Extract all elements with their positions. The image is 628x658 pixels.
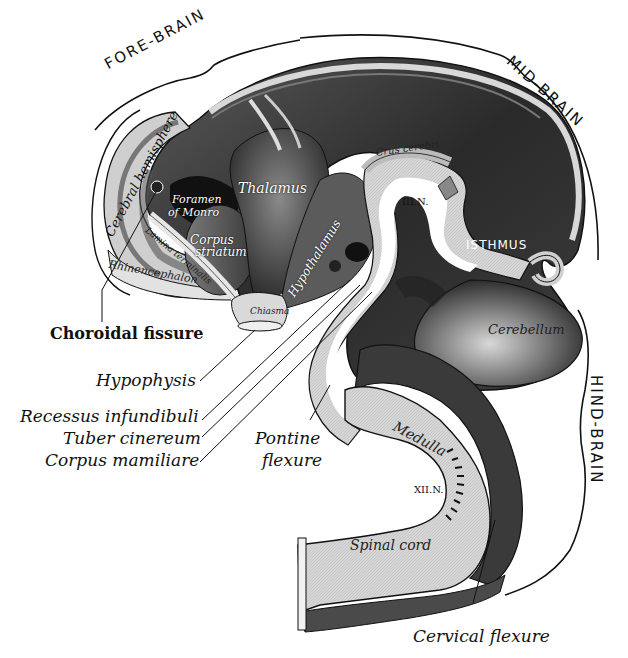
hind-brain-label: HIND-BRAIN [587, 375, 605, 484]
pontine-flexure-label-2: flexure [262, 450, 322, 470]
corpus-mamillare-label: Corpus mamiliare [45, 450, 199, 470]
choroidal-fissure-label: Choroidal fissure [50, 324, 203, 343]
foramen-of-monro-label-1: Foramen [172, 193, 222, 206]
hypophysis-label: Hypophysis [96, 370, 196, 390]
isthmus-label: ISTHMUS [466, 238, 527, 252]
thalamus-label: Thalamus [238, 180, 307, 196]
brain-diagram: FORE-BRAIN MID-BRAIN HIND-BRAIN Cerebral… [0, 0, 628, 658]
cervical-flexure-label: Cervical flexure [413, 626, 550, 646]
chiasma-label: Chiasma [250, 306, 289, 316]
recessus-infundibuli-label: Recessus infundibuli [20, 406, 199, 426]
spinal-cord-label: Spinal cord [350, 537, 431, 553]
third-nerve-label: III.N. [402, 196, 428, 207]
corpus-striatum-label-2: striatum [195, 245, 247, 259]
cerebellum-label: Cerebellum [488, 322, 565, 337]
hypophysis-stalk [238, 321, 282, 331]
twelfth-nerve-label: XII.N. [414, 484, 444, 495]
tuber-cinereum-label: Tuber cinereum [63, 428, 201, 448]
foramen-of-monro-label-2: of Monro [168, 206, 219, 219]
pontine-flexure-label-1: Pontine [255, 428, 320, 448]
spinal-cord-cut-end [298, 538, 306, 630]
